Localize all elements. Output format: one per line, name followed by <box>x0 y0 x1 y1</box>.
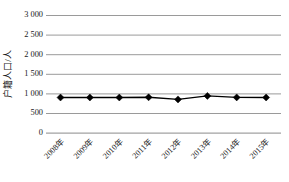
data-point-2014 <box>233 94 240 101</box>
y-axis-title: 户籍人口/人 <box>2 50 13 98</box>
y-tick-label-2000: 2 000 <box>24 50 43 59</box>
x-tick-label-2014: 2014年 <box>218 136 242 160</box>
y-tick-label-1500: 1 500 <box>24 69 43 78</box>
line-chart: 3 000 2 500 2 000 1 500 1 000 500 0 户籍人口… <box>0 0 289 182</box>
x-tick-label-2008: 2008年 <box>42 136 66 160</box>
x-axis-tick-labels: 2008年 2009年 2010年 2011年 2012年 2013年 2014… <box>42 136 272 160</box>
y-tick-label-1000: 1 000 <box>24 89 43 98</box>
y-tick-label-2500: 2 500 <box>24 30 43 39</box>
x-tick-label-2013: 2013年 <box>189 136 213 160</box>
x-tick-label-2011: 2011年 <box>130 136 154 160</box>
data-point-2009 <box>86 94 93 101</box>
data-point-2012 <box>175 96 182 103</box>
y-tick-label-3000: 3 000 <box>24 10 43 19</box>
x-tick-label-2010: 2010年 <box>100 136 124 160</box>
x-tick-label-2015: 2015年 <box>247 136 271 160</box>
data-point-2011 <box>145 94 152 101</box>
y-axis-gridlines <box>46 16 281 134</box>
chart-container: 3 000 2 500 2 000 1 500 1 000 500 0 户籍人口… <box>0 0 289 182</box>
y-axis-tick-labels: 3 000 2 500 2 000 1 500 1 000 500 0 <box>24 10 43 137</box>
y-tick-label-500: 500 <box>30 108 43 117</box>
x-tick-label-2009: 2009年 <box>71 136 95 160</box>
data-point-2008 <box>57 94 64 101</box>
x-tick-label-2012: 2012年 <box>159 136 183 160</box>
y-tick-label-0: 0 <box>39 128 43 137</box>
data-point-2015 <box>263 94 270 101</box>
data-point-2010 <box>116 94 123 101</box>
